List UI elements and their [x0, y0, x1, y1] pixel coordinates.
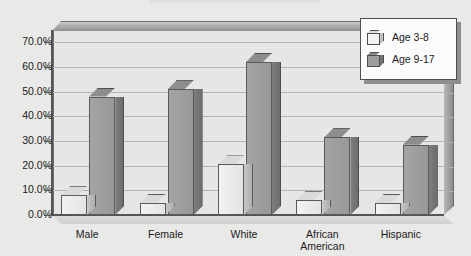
- bar-top-face: [89, 88, 115, 97]
- category-label-african-american: AfricanAmerican: [283, 228, 361, 252]
- cube-front: [367, 33, 380, 45]
- category-label-line: Male: [48, 228, 126, 240]
- bar-hispanic-age-3-8: [375, 203, 401, 215]
- bar-top-face: [140, 194, 166, 203]
- bar-front-face: [375, 203, 401, 215]
- bar-front-face: [296, 200, 322, 215]
- cube-front: [367, 55, 380, 67]
- legend-item-age-3-8: Age 3-8: [367, 26, 450, 48]
- bar-front-face: [140, 203, 166, 215]
- bar-female-age-9-17: [168, 89, 194, 215]
- cube-dark-icon: [367, 52, 384, 67]
- bar-white-age-3-8: [218, 164, 244, 215]
- category-label-line: White: [205, 228, 283, 240]
- bar-side-face: [115, 97, 124, 215]
- cube-light-icon: [367, 30, 384, 45]
- bar-top-face: [218, 155, 244, 164]
- bar-african-american-age-3-8: [296, 200, 322, 215]
- bar-front-face: [61, 195, 87, 215]
- legend-item-age-9-17: Age 9-17: [367, 48, 450, 70]
- category-label-line: American: [283, 240, 361, 252]
- bar-side-face: [272, 62, 281, 215]
- legend-item-label: Age 3-8: [392, 31, 429, 43]
- bar-front-face: [218, 164, 244, 215]
- category-label-female: Female: [126, 228, 204, 240]
- category-label-hispanic: Hispanic: [362, 228, 440, 240]
- chart-legend: Age 3-8Age 9-17: [360, 18, 457, 80]
- category-label-white: White: [205, 228, 283, 240]
- category-label-line: Female: [126, 228, 204, 240]
- category-label-line: African: [283, 228, 361, 240]
- bar-female-age-3-8: [140, 203, 166, 215]
- bar-front-face: [168, 89, 194, 215]
- cube-side: [380, 33, 384, 45]
- bar-top-face: [403, 136, 429, 145]
- bar-top-face: [296, 191, 322, 200]
- bar-side-face: [350, 137, 359, 215]
- bar-side-face: [429, 145, 438, 215]
- bar-top-face: [375, 194, 401, 203]
- bar-top-face: [246, 53, 272, 62]
- bar-top-face: [168, 80, 194, 89]
- bar-chart: 0.0%10.0%20.0%30.0%40.0%50.0%60.0%70.0% …: [0, 0, 471, 256]
- cube-side: [380, 55, 384, 67]
- bar-top-face: [61, 186, 87, 195]
- bar-male-age-3-8: [61, 195, 87, 215]
- legend-item-label: Age 9-17: [392, 53, 435, 65]
- category-label-male: Male: [48, 228, 126, 240]
- category-label-line: Hispanic: [362, 228, 440, 240]
- bar-side-face: [194, 89, 203, 215]
- bar-top-face: [324, 128, 350, 137]
